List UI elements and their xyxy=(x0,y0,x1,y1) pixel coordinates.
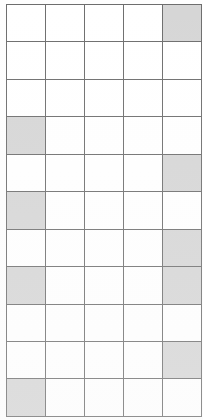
grid-cell-empty[interactable] xyxy=(163,192,202,229)
grid-cell-shaded[interactable] xyxy=(7,379,46,416)
grid-cell-empty[interactable] xyxy=(7,154,46,191)
grid-cell-empty[interactable] xyxy=(7,5,46,42)
grid-cell-shaded[interactable] xyxy=(7,192,46,229)
grid-cell-empty[interactable] xyxy=(85,154,124,191)
grid-cell-empty[interactable] xyxy=(46,267,85,304)
grid-cell-shaded[interactable] xyxy=(163,267,202,304)
grid-cell-empty[interactable] xyxy=(46,154,85,191)
grid-cell-shaded[interactable] xyxy=(163,154,202,191)
grid-row xyxy=(7,192,202,229)
grid-cell-empty[interactable] xyxy=(46,229,85,266)
grid-cell-shaded[interactable] xyxy=(163,5,202,42)
grid-row xyxy=(7,5,202,42)
grid-cell-empty[interactable] xyxy=(46,341,85,378)
grid-cell-empty[interactable] xyxy=(124,304,163,341)
grid-cell-empty[interactable] xyxy=(163,379,202,416)
grid-row xyxy=(7,304,202,341)
grid-cell-empty[interactable] xyxy=(46,192,85,229)
grid-cell-empty[interactable] xyxy=(85,117,124,154)
grid-cell-empty[interactable] xyxy=(85,267,124,304)
grid-row xyxy=(7,154,202,191)
grid-cell-empty[interactable] xyxy=(124,154,163,191)
grid-cell-empty[interactable] xyxy=(85,304,124,341)
grid-cell-empty[interactable] xyxy=(85,5,124,42)
grid-cell-shaded[interactable] xyxy=(163,341,202,378)
grid-cell-empty[interactable] xyxy=(46,42,85,79)
grid-cell-empty[interactable] xyxy=(85,229,124,266)
grid-cell-empty[interactable] xyxy=(46,304,85,341)
grid-cell-empty[interactable] xyxy=(7,341,46,378)
grid-cell-empty[interactable] xyxy=(124,117,163,154)
grid-row xyxy=(7,42,202,79)
grid-cell-empty[interactable] xyxy=(124,79,163,116)
grid-cell-empty[interactable] xyxy=(124,42,163,79)
grid-row xyxy=(7,79,202,116)
grid-row xyxy=(7,379,202,416)
grid-cell-empty[interactable] xyxy=(46,79,85,116)
grid-cell-shaded[interactable] xyxy=(7,117,46,154)
grid-body xyxy=(7,5,202,417)
grid-cell-empty[interactable] xyxy=(124,5,163,42)
grid-cell-empty[interactable] xyxy=(7,42,46,79)
grid-canvas xyxy=(0,0,203,420)
grid-row xyxy=(7,229,202,266)
grid-row xyxy=(7,117,202,154)
grid-cell-empty[interactable] xyxy=(163,117,202,154)
grid-cell-empty[interactable] xyxy=(7,229,46,266)
grid-cell-empty[interactable] xyxy=(46,379,85,416)
grid-cell-empty[interactable] xyxy=(85,192,124,229)
grid-cell-shaded[interactable] xyxy=(163,229,202,266)
grid-cell-empty[interactable] xyxy=(85,379,124,416)
grid-cell-empty[interactable] xyxy=(124,192,163,229)
grid-cell-empty[interactable] xyxy=(124,341,163,378)
grid-row xyxy=(7,341,202,378)
grid-cell-empty[interactable] xyxy=(163,79,202,116)
grid-cell-empty[interactable] xyxy=(163,42,202,79)
grid-row xyxy=(7,267,202,304)
grid-cell-empty[interactable] xyxy=(124,379,163,416)
grid-cell-empty[interactable] xyxy=(85,341,124,378)
grid-cell-empty[interactable] xyxy=(124,267,163,304)
grid-table xyxy=(6,4,202,417)
grid-cell-empty[interactable] xyxy=(7,304,46,341)
grid-cell-empty[interactable] xyxy=(85,79,124,116)
grid-cell-empty[interactable] xyxy=(46,117,85,154)
grid-cell-shaded[interactable] xyxy=(7,267,46,304)
grid-cell-empty[interactable] xyxy=(124,229,163,266)
grid-cell-empty[interactable] xyxy=(46,5,85,42)
grid-cell-empty[interactable] xyxy=(7,79,46,116)
grid-cell-empty[interactable] xyxy=(163,304,202,341)
grid-cell-empty[interactable] xyxy=(85,42,124,79)
